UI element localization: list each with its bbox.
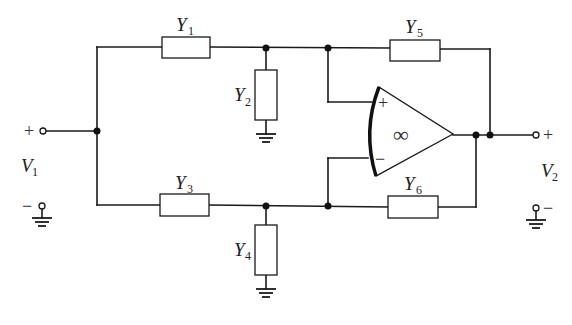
output-plus-terminal — [533, 132, 539, 138]
label-v1: V 1 — [21, 155, 38, 179]
svg-text:1: 1 — [32, 165, 38, 179]
label-y3: Y 3 — [175, 172, 193, 196]
svg-text:1: 1 — [188, 24, 194, 38]
opamp-inverting-sign: − — [375, 149, 385, 169]
admittance-y5 — [390, 40, 440, 61]
circuit-diagram: ∞ + − Y 1 Y 2 Y 3 Y 4 — [0, 0, 572, 325]
svg-text:4: 4 — [245, 249, 251, 263]
opamp: ∞ + − — [370, 87, 453, 176]
admittance-y2 — [255, 70, 277, 120]
opamp-gain-symbol: ∞ — [393, 122, 409, 147]
input-plus-sign: + — [24, 121, 34, 141]
label-y1: Y 1 — [176, 14, 194, 38]
svg-text:2: 2 — [245, 95, 251, 109]
label-v2: V 2 — [541, 160, 558, 184]
ground-icon — [256, 134, 276, 142]
label-y5: Y 5 — [405, 16, 423, 40]
input-minus-sign: − — [22, 196, 32, 216]
admittance-y3 — [160, 194, 209, 216]
ground-icon — [32, 218, 52, 226]
svg-text:6: 6 — [416, 183, 422, 197]
svg-text:5: 5 — [417, 26, 423, 40]
admittance-y4 — [255, 225, 277, 275]
label-y4: Y 4 — [234, 239, 251, 263]
output-plus-sign: + — [543, 125, 553, 145]
wires — [42, 47, 536, 289]
output-minus-terminal — [533, 205, 539, 211]
admittance-y1 — [162, 37, 210, 58]
label-y2: Y 2 — [234, 84, 251, 109]
ground-icon — [526, 220, 546, 228]
svg-text:2: 2 — [552, 170, 558, 184]
junctions — [94, 45, 494, 210]
ground-icon — [256, 289, 276, 297]
input-minus-terminal — [39, 203, 45, 209]
opamp-noninverting-sign: + — [378, 93, 388, 113]
input-plus-terminal — [40, 128, 46, 134]
label-y6: Y 6 — [404, 173, 422, 197]
output-minus-sign: − — [543, 198, 553, 218]
admittance-y6 — [388, 196, 438, 218]
svg-text:3: 3 — [187, 182, 193, 196]
